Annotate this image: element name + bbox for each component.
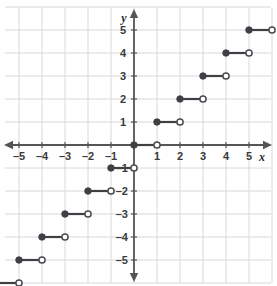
chart-canvas: –5–4–3–2–11234554321–1–2–3–4–5 yx <box>0 0 277 286</box>
y-tick-label: –5 <box>116 254 128 266</box>
open-endpoint <box>154 142 160 148</box>
y-tick-label: –3 <box>116 208 128 220</box>
open-endpoint <box>269 27 275 33</box>
x-tick-label: 5 <box>246 150 252 162</box>
x-tick-label: –1 <box>105 150 117 162</box>
x-axis-label: x <box>258 150 265 164</box>
open-endpoint <box>39 257 45 263</box>
closed-endpoint <box>177 96 184 103</box>
x-tick-label: 3 <box>200 150 206 162</box>
closed-endpoint <box>223 50 230 57</box>
closed-endpoint <box>85 188 92 195</box>
open-endpoint <box>246 50 252 56</box>
x-tick-label: –4 <box>36 150 49 162</box>
closed-endpoint <box>200 73 207 80</box>
x-tick-label: –2 <box>82 150 94 162</box>
x-tick-label: 4 <box>223 150 230 162</box>
open-endpoint <box>85 211 91 217</box>
y-tick-label: 2 <box>120 93 126 105</box>
open-endpoint <box>223 73 229 79</box>
x-tick-label: 2 <box>177 150 183 162</box>
y-tick-label: –2 <box>116 185 128 197</box>
open-endpoint <box>16 280 22 286</box>
closed-endpoint <box>62 211 69 218</box>
closed-endpoint <box>131 142 138 149</box>
y-axis-label: y <box>119 11 127 25</box>
open-endpoint <box>200 96 206 102</box>
y-tick-label: 4 <box>120 47 127 59</box>
closed-endpoint <box>154 119 161 126</box>
x-tick-label: –5 <box>13 150 25 162</box>
closed-endpoint <box>108 165 115 172</box>
open-endpoint <box>108 188 114 194</box>
x-tick-label: –3 <box>59 150 71 162</box>
y-tick-label: –4 <box>116 231 129 243</box>
open-endpoint <box>131 165 137 171</box>
closed-endpoint <box>246 27 253 34</box>
open-endpoint <box>177 119 183 125</box>
y-tick-label: 3 <box>120 70 126 82</box>
step-function-chart: –5–4–3–2–11234554321–1–2–3–4–5 yx <box>0 0 277 286</box>
y-tick-label: 1 <box>120 116 126 128</box>
closed-endpoint <box>39 234 46 241</box>
x-tick-label: 1 <box>154 150 160 162</box>
y-tick-label: 5 <box>120 24 126 36</box>
open-endpoint <box>62 234 68 240</box>
closed-endpoint <box>16 257 23 264</box>
